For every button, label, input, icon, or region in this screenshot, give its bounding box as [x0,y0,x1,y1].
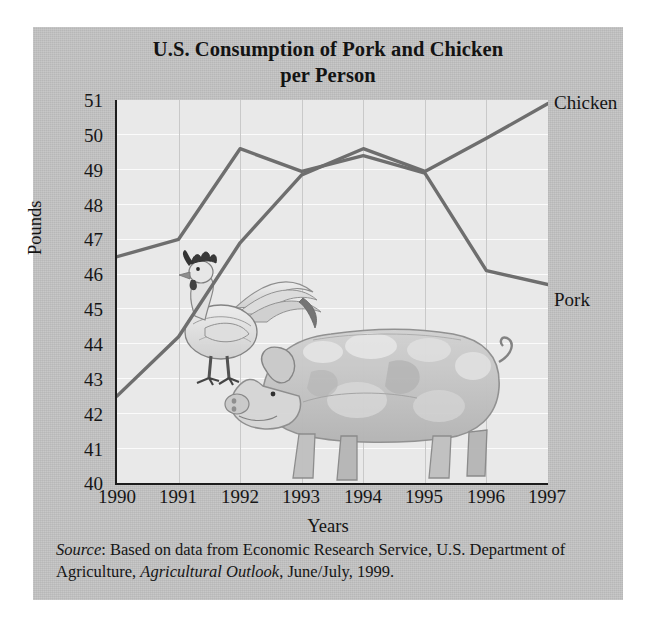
plot-area [115,100,548,485]
figure-panel: U.S. Consumption of Pork and Chicken per… [33,27,623,600]
series-label-chicken: Chicken [554,93,617,112]
x-tick-label: 1997 [512,487,582,507]
source-prefix: Source [56,540,101,559]
y-tick-label: 44 [63,335,103,354]
y-tick-label: 42 [63,405,103,424]
x-tick-label: 1994 [328,487,398,507]
y-tick-label: 41 [63,440,103,459]
x-tick-label: 1995 [389,487,459,507]
y-tick-label: 46 [63,265,103,284]
x-tick-label: 1993 [266,487,336,507]
series-lines-layer [117,100,548,483]
x-tick-label: 1992 [205,487,275,507]
x-tick-label: 1991 [143,487,213,507]
source-note: Source: Based on data from Economic Rese… [56,539,604,582]
source-publication-title: Agricultural Outlook [140,562,279,581]
source-text-part-2: , June/July, 1999. [279,562,394,581]
y-tick-label: 47 [63,230,103,249]
y-tick-label: 50 [63,126,103,145]
y-tick-label: 51 [63,91,103,110]
plot-inner [117,100,548,483]
y-axis-label: Pounds [25,201,46,256]
y-tick-label: 48 [63,196,103,215]
chart-title: U.S. Consumption of Pork and Chicken per… [33,36,623,88]
x-axis-label: Years [33,516,623,537]
series-line-pork [117,149,548,285]
y-tick-label: 49 [63,161,103,180]
x-tick-label: 1996 [451,487,521,507]
x-tick-label: 1990 [82,487,152,507]
series-label-pork: Pork [554,290,590,309]
series-line-chicken [117,104,548,397]
chart-title-line-1: U.S. Consumption of Pork and Chicken [153,38,503,60]
y-tick-label: 45 [63,300,103,319]
y-tick-label: 43 [63,370,103,389]
chart-title-line-2: per Person [33,62,623,88]
